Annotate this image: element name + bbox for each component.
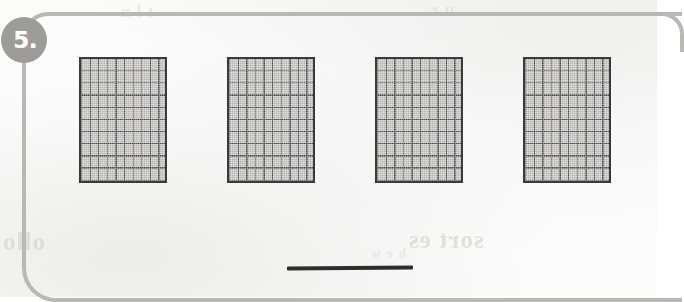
hundred-square-model-2	[227, 57, 315, 183]
hundred-square-model-3	[375, 57, 463, 183]
hundred-square-model-4	[523, 57, 611, 183]
problem-number-badge: 5.	[1, 17, 47, 63]
bleed-through-text-top-left: t l n	[120, 2, 153, 22]
hundred-square-models-row	[79, 57, 611, 183]
bleed-through-text-top-right: u r	[430, 0, 454, 20]
bleed-through-text-left: ollo	[2, 228, 45, 256]
problem-number-label: 5.	[11, 29, 37, 52]
bleed-through-text-middle: h e w	[370, 246, 406, 262]
bleed-through-text-right: sort es	[408, 226, 484, 254]
hundred-square-model-1	[79, 57, 167, 183]
